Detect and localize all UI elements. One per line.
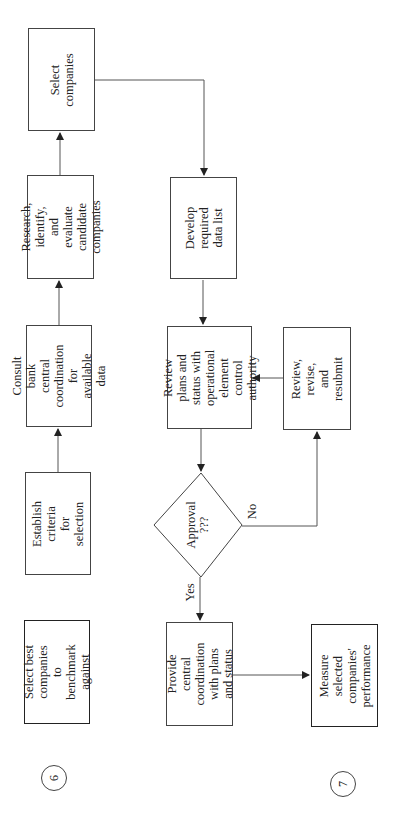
edge-label-yes: Yes [183, 583, 198, 601]
node-label: Provide central coordination with plans … [165, 642, 235, 705]
node-select-best: Select best companies to benchmark again… [24, 620, 90, 724]
edge-label-no: No [245, 504, 260, 519]
step-marker-7: 7 [330, 771, 356, 797]
node-label: Select best companies to benchmark again… [22, 644, 92, 700]
node-research: Research, identify, and evaluate candida… [27, 175, 94, 279]
node-label: Review plans and status with operational… [161, 349, 259, 405]
node-measure-performance: Measure selected companies' performance [311, 624, 378, 727]
edge-select-develop [95, 80, 204, 175]
node-label: Select companies [48, 53, 76, 106]
node-review-revise-resubmit: Review, revise, and resubmit [283, 327, 351, 430]
node-establish-criteria: Establish criteria for selection [25, 472, 91, 575]
node-select-companies: Select companies [28, 28, 95, 131]
node-label: Review, revise, and resubmit [289, 357, 345, 401]
step-number: 6 [47, 775, 62, 781]
node-label: Consult bank central coordination for av… [10, 344, 108, 407]
node-label: Develop required data list [183, 207, 225, 249]
node-review-plans: Review plans and status with operational… [167, 326, 252, 429]
node-provide-coordination: Provide central coordination with plans … [166, 622, 233, 726]
node-consult-bank: Consult bank central coordination for av… [26, 325, 92, 427]
node-approval: Approval ??? [154, 473, 242, 577]
step-number: 7 [336, 781, 351, 787]
node-label: Measure selected companies' performance [317, 644, 373, 707]
node-develop: Develop required data list [170, 177, 237, 279]
node-label: Establish criteria for selection [30, 501, 86, 547]
node-label: Approval ??? [185, 501, 211, 548]
node-label: Research, identify, and evaluate candida… [19, 200, 103, 253]
step-marker-6: 6 [41, 765, 67, 791]
